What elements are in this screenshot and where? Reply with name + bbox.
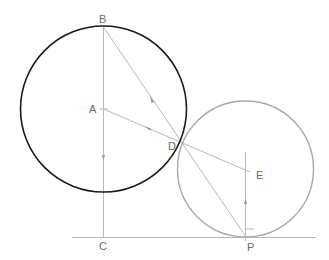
geometry-diagram: B A D E C P bbox=[0, 0, 329, 260]
arrow-bd bbox=[150, 96, 154, 103]
line-bp bbox=[104, 27, 247, 237]
label-c: C bbox=[99, 240, 107, 252]
label-a: A bbox=[89, 103, 97, 115]
label-p: P bbox=[247, 241, 254, 253]
label-b: B bbox=[99, 13, 106, 25]
label-d: D bbox=[168, 140, 176, 152]
arrow-ac bbox=[102, 155, 105, 161]
line-ae bbox=[104, 109, 251, 172]
arrow-ep bbox=[244, 198, 247, 204]
label-e: E bbox=[256, 169, 263, 181]
arrow-ad bbox=[144, 126, 151, 131]
